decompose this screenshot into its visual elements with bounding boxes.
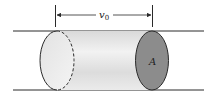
velocity-label: v0 (99, 9, 109, 22)
flow-cylinder-diagram: A v0 (0, 0, 216, 97)
area-label: A (148, 56, 156, 67)
